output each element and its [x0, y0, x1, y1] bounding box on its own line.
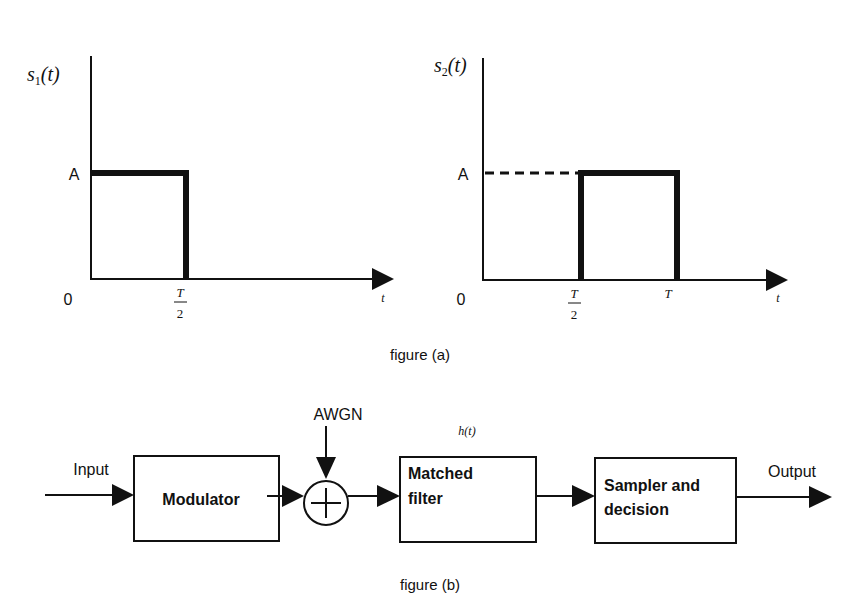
plot-s1: s1(t) A 0 T 2 t [27, 56, 394, 321]
plot-s2: s2(t) A 0 T 2 T t [434, 54, 788, 322]
figure-b-caption: figure (b) [400, 576, 460, 593]
figure-canvas: s1(t) A 0 T 2 t s2(t) A 0 T 2 T t figure… [0, 0, 862, 608]
sampler-label-line2: decision [604, 501, 669, 518]
matched-filter-label-line2: filter [408, 490, 443, 507]
s2-tick1-den: 2 [571, 307, 578, 322]
modulator-output-arrow-icon [282, 485, 304, 507]
s1-pulse [91, 173, 186, 279]
matched-filter-label-line1: Matched [408, 465, 473, 482]
s2-x-axis-arrow-icon [766, 269, 788, 291]
s1-origin-label: 0 [64, 291, 73, 308]
s1-tick-den: 2 [177, 306, 184, 321]
s2-origin-label: 0 [457, 291, 466, 308]
filter-response-label: h(t) [458, 424, 475, 438]
figure-a-caption: figure (a) [390, 346, 450, 363]
filter-output-arrow-icon [572, 485, 595, 507]
output-arrow-icon [809, 486, 832, 508]
awgn-arrow-icon [316, 457, 336, 479]
s1-level-label: A [69, 166, 80, 183]
awgn-label: AWGN [313, 406, 362, 423]
s2-tick1-num: T [570, 286, 578, 301]
input-label: Input [73, 461, 109, 478]
sampler-label-line1: Sampler and [604, 477, 700, 494]
s2-xlabel: t [776, 291, 780, 305]
modulator-label: Modulator [162, 491, 239, 508]
s2-level-label: A [458, 166, 469, 183]
s1-ylabel: s1(t) [27, 63, 60, 88]
s2-pulse [581, 173, 677, 280]
s2-ylabel: s2(t) [434, 54, 467, 79]
s2-tick2: T [664, 286, 672, 301]
s1-tick-num: T [176, 285, 184, 300]
block-diagram: Input Modulator AWGN h(t) Matched filter… [45, 406, 832, 543]
s1-xlabel: t [381, 291, 385, 305]
summer-output-arrow-icon [377, 485, 400, 507]
output-label: Output [768, 463, 817, 480]
input-arrow-icon [112, 484, 134, 506]
s1-x-axis-arrow-icon [372, 268, 394, 290]
